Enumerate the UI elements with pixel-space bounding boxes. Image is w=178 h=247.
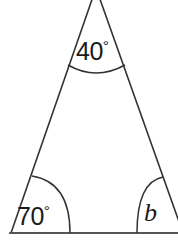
triangle-left-side — [11, 0, 96, 233]
bottom-left-angle-value: 70 — [17, 202, 44, 230]
apex-angle-arc — [68, 65, 125, 73]
bottom-left-angle-label: 70° — [17, 203, 50, 229]
degree-symbol-icon: ° — [44, 202, 50, 219]
triangle-angle-figure: 40° 70° b — [0, 0, 178, 247]
bottom-right-angle-label: b — [144, 200, 157, 226]
apex-angle-label: 40° — [76, 38, 109, 64]
triangle-right-side — [96, 0, 178, 233]
degree-symbol-icon: ° — [103, 37, 109, 54]
apex-angle-value: 40 — [76, 37, 103, 65]
